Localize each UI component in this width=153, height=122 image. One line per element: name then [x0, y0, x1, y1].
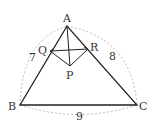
length-ac: 8 — [109, 50, 116, 63]
label-r: R — [90, 41, 99, 54]
length-ab: 7 — [29, 51, 36, 64]
triangle-diagram: A B C Q R P 7 8 9 — [0, 0, 153, 122]
label-b: B — [8, 100, 16, 113]
segment-qp — [50, 51, 70, 66]
label-p: P — [66, 69, 74, 82]
segment-ap — [67, 26, 70, 66]
length-bc: 9 — [76, 110, 83, 122]
label-a: A — [62, 12, 72, 25]
label-q: Q — [38, 44, 47, 57]
triangle-abc — [20, 26, 137, 105]
label-c: C — [139, 100, 147, 113]
segment-rp — [70, 49, 88, 66]
